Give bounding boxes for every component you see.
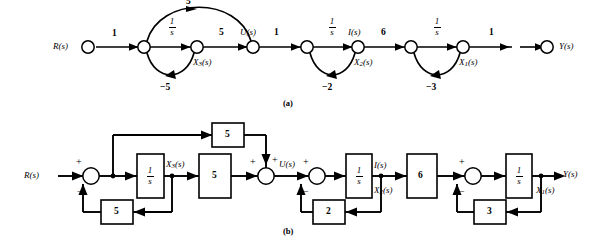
frac-denominator: s [353, 177, 365, 186]
panel-b-label-R: R(s) [24, 171, 39, 180]
panel-a-graph [82, 6, 553, 79]
node-R [82, 41, 94, 53]
panel-b-block-ff5-label: 5 [225, 130, 230, 140]
panel-b-block-fb5-label: 5 [114, 207, 119, 217]
frac-denominator: s [513, 177, 525, 186]
panel-b-summer2-plus-top: + [272, 155, 278, 165]
summer-1 [83, 168, 99, 184]
node-X1 [457, 41, 469, 53]
panel-b-block-fb2-label: 2 [326, 207, 331, 217]
panel-b-block-int1-label: 1 s [513, 166, 525, 186]
panel-a-label-Y: Y(s) [559, 42, 574, 51]
panel-a-gain-6: 6 [381, 28, 386, 38]
frac-numerator: 1 [166, 17, 178, 26]
frac-numerator: 1 [353, 166, 365, 175]
panel-b-summer1-plus: + [76, 157, 82, 167]
panel-b-graph [58, 123, 560, 224]
panel-b-summer4-minus: − [459, 187, 465, 197]
panel-b-X2-tail: (s) [383, 185, 393, 195]
panel-b-X1-tail: (s) [545, 185, 555, 195]
panel-b-label-X2: X2(s) [374, 186, 393, 196]
frac-numerator: 1 [513, 166, 525, 175]
panel-b-caption: (b) [283, 226, 293, 236]
figure-canvas: R(s) 1 1 s 5 5 −5 X3(s) U(s) 1 1 s I(s) … [0, 0, 595, 240]
panel-a-gain-int1: 1 s [431, 17, 443, 37]
panel-a-X3-tail: (s) [202, 57, 212, 67]
summer-3 [309, 168, 325, 184]
panel-a-gain-5-arc: 5 [186, 0, 191, 7]
panel-a-gain-5-mid: 5 [219, 28, 224, 38]
node-U [247, 41, 259, 53]
panel-a-label-X1: X1(s) [459, 58, 478, 68]
frac-numerator: 1 [431, 17, 443, 26]
node-sum1 [138, 41, 150, 53]
panel-b-label-X1: X1(s) [536, 186, 555, 196]
panel-a-X1-tail: (s) [468, 57, 478, 67]
panel-a-gain-neg3: −3 [426, 83, 436, 93]
panel-a-label-X3: X3(s) [193, 58, 212, 68]
panel-a-label-R: R(s) [53, 42, 68, 51]
panel-b-label-U: U(s) [279, 160, 295, 169]
panel-a-label-X2: X2(s) [354, 58, 373, 68]
frac-numerator: 1 [144, 166, 156, 175]
panel-b-summer3-minus: − [303, 187, 309, 197]
panel-a-label-U: U(s) [240, 28, 256, 37]
frac-denominator: s [144, 177, 156, 186]
panel-b-label-X3: X3(s) [166, 160, 185, 170]
node-X3 [191, 41, 203, 53]
panel-a-X2-tail: (s) [363, 57, 373, 67]
node-sum3 [405, 41, 417, 53]
panel-a-gain-int2: 1 s [326, 17, 338, 37]
node-Y [541, 41, 553, 53]
diagram-vector-layer [0, 0, 595, 240]
panel-a-gain-1-input: 1 [112, 29, 117, 39]
panel-a-gain-1-output: 1 [489, 28, 494, 38]
panel-b-block-fwd5-label: 5 [212, 171, 217, 181]
frac-denominator: s [166, 28, 178, 37]
node-I-X2 [352, 41, 364, 53]
panel-a-gain-neg5: −5 [160, 83, 170, 93]
panel-b-summer2-plus-left: + [250, 157, 256, 167]
summer-4 [465, 168, 481, 184]
frac-denominator: s [431, 28, 443, 37]
panel-b-label-Y: Y(s) [563, 170, 578, 179]
panel-a-gain-int3: 1 s [166, 17, 178, 37]
panel-b-X3-tail: (s) [175, 159, 185, 169]
panel-b-block-int2-label: 1 s [353, 166, 365, 186]
panel-a-gain-neg2: −2 [322, 83, 332, 93]
frac-numerator: 1 [326, 17, 338, 26]
panel-b-summer4-plus: + [459, 157, 465, 167]
node-sum2 [301, 41, 313, 53]
panel-a-label-I: I(s) [348, 28, 361, 37]
panel-b-summer3-plus: + [303, 157, 309, 167]
panel-b-label-I: I(s) [374, 161, 387, 170]
panel-b-block-int3-label: 1 s [144, 166, 156, 186]
panel-b-block-fb3-label: 3 [487, 207, 492, 217]
summer-2 [258, 168, 274, 184]
panel-b-block-g6-label: 6 [418, 171, 423, 181]
panel-a-gain-1-u: 1 [274, 28, 279, 38]
panel-a-caption: (a) [283, 98, 293, 108]
frac-denominator: s [326, 28, 338, 37]
panel-b-summer1-minus: − [77, 187, 83, 197]
